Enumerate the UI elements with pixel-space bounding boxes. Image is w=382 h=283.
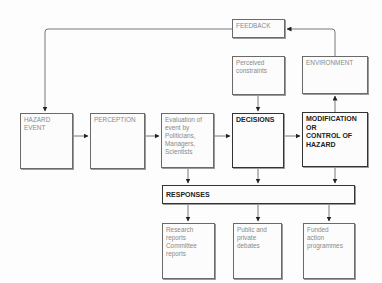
hazard-response-diagram: FEEDBACK Perceived constraints ENVIRONME… — [0, 0, 382, 283]
node-perceived-constraints: Perceived constraints — [232, 56, 285, 95]
node-modification: MODIFICATION OR CONTROL OF HAZARD — [302, 112, 368, 167]
node-responses: RESPONSES — [162, 185, 355, 204]
node-hazard-event: HAZARD EVENT — [20, 113, 73, 169]
node-evaluation: Evaluation of event by Politicians, Mana… — [161, 113, 214, 168]
node-debates: Public and private debates — [233, 223, 282, 279]
node-research-reports: Research reports Committee reports — [162, 223, 215, 279]
node-feedback: FEEDBACK — [232, 19, 285, 38]
node-perception: PERCEPTION — [90, 113, 145, 169]
node-decisions: DECISIONS — [232, 113, 284, 168]
node-environment: ENVIRONMENT — [302, 56, 368, 94]
node-funded-action: Funded action programmes — [303, 223, 355, 279]
